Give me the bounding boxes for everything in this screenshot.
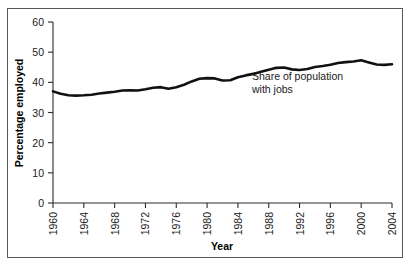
y-axis-ticks bbox=[48, 22, 53, 203]
y-tick-label: 10 bbox=[32, 167, 44, 179]
x-axis-title: Year bbox=[211, 240, 233, 252]
x-tick-label: 1996 bbox=[324, 212, 336, 236]
x-tick-label: 1972 bbox=[139, 212, 151, 236]
x-axis-ticks bbox=[53, 203, 392, 208]
y-tick-label: 40 bbox=[32, 76, 44, 88]
y-tick-label: 0 bbox=[38, 197, 44, 209]
figure-container: 0102030405060 19601964196819721976198019… bbox=[0, 0, 411, 268]
x-axis-tick-labels: 1960196419681972197619801984198819921996… bbox=[47, 212, 398, 236]
x-tick-label: 2004 bbox=[386, 212, 398, 236]
x-tick-label: 1988 bbox=[263, 212, 275, 236]
y-tick-label: 30 bbox=[32, 107, 44, 119]
x-tick-label: 1992 bbox=[294, 212, 306, 236]
y-axis-tick-labels: 0102030405060 bbox=[32, 16, 44, 209]
x-tick-label: 1964 bbox=[78, 212, 90, 236]
x-tick-label: 1984 bbox=[232, 212, 244, 236]
x-tick-label: 1976 bbox=[170, 212, 182, 236]
annotation-line-2: with jobs bbox=[251, 83, 293, 95]
x-tick-label: 1960 bbox=[47, 212, 59, 236]
x-tick-label: 2000 bbox=[355, 212, 367, 236]
x-tick-label: 1968 bbox=[109, 212, 121, 236]
x-tick-label: 1980 bbox=[201, 212, 213, 236]
annotation-line-1: Share of population bbox=[252, 70, 343, 82]
y-tick-label: 60 bbox=[32, 16, 44, 28]
y-axis-title: Percentage employed bbox=[13, 59, 25, 168]
y-tick-label: 20 bbox=[32, 137, 44, 149]
y-tick-label: 50 bbox=[32, 46, 44, 58]
line-chart: 0102030405060 19601964196819721976198019… bbox=[0, 0, 411, 268]
